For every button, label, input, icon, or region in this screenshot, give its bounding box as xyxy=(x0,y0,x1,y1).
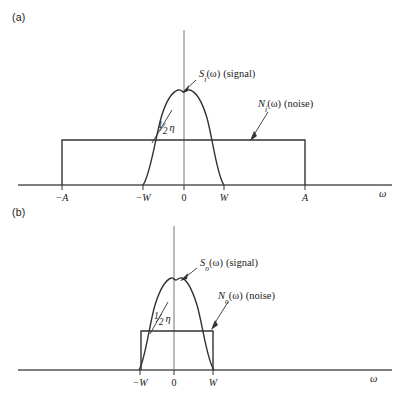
panel-a-noise-subscript: i xyxy=(265,105,267,114)
panel-b: (b) So(ω)(signal) xyxy=(0,198,402,398)
panel-a-signal-annotation: Si(ω)(signal) xyxy=(199,69,255,82)
panel-a-signal-arrow-head xyxy=(182,85,189,93)
panel-a-signal-kind: (signal) xyxy=(223,68,255,79)
panel-a-plot xyxy=(0,0,402,200)
panel-b-level-annotation: 1⁄2η xyxy=(154,309,171,325)
panel-a-noise-annotation: Ni(ω)(noise) xyxy=(258,99,313,112)
panel-b-axis-label: ω xyxy=(370,373,377,384)
panel-b-noise-symbol: N xyxy=(218,290,225,301)
panel-a-level-annotation: 1⁄2η xyxy=(158,118,175,134)
panel-a-level-symbol: η xyxy=(170,122,175,133)
panel-b-plot xyxy=(0,198,402,398)
panel-b-noise-kind: (noise) xyxy=(246,290,275,301)
panel-b-signal-kind: (signal) xyxy=(226,257,258,268)
panel-b-signal-annotation: So(ω)(signal) xyxy=(200,258,258,271)
panel-b-ticklabel-w: W xyxy=(209,377,217,388)
panel-a-signal-argument: (ω) xyxy=(206,68,220,79)
panel-b-signal-curve xyxy=(139,278,214,370)
panel-a-noise-argument: (ω) xyxy=(267,98,281,109)
panel-b-noise-subscript: o xyxy=(225,297,229,306)
panel-b-noise-argument: (ω) xyxy=(229,290,243,301)
figure-container: (a) Si(ω)(si xyxy=(0,0,402,398)
panel-b-level-symbol: η xyxy=(166,313,171,324)
panel-b-ticklabel-minus-w: −W xyxy=(132,377,147,388)
panel-b-signal-argument: (ω) xyxy=(209,257,223,268)
panel-a: (a) Si(ω)(si xyxy=(0,0,402,200)
panel-b-level-denominator: 2 xyxy=(159,317,164,327)
panel-b-noise-annotation: No(ω)(noise) xyxy=(218,291,275,304)
panel-a-level-denominator: 2 xyxy=(163,126,168,136)
panel-b-signal-arrow-head xyxy=(180,273,188,281)
panel-b-noise-rectangle xyxy=(141,331,213,370)
panel-a-noise-symbol: N xyxy=(258,98,265,109)
panel-b-ticklabel-zero: 0 xyxy=(172,377,177,388)
panel-b-signal-subscript: o xyxy=(205,264,209,273)
panel-a-noise-kind: (noise) xyxy=(284,98,313,109)
panel-b-noise-arrow-head xyxy=(211,320,218,330)
